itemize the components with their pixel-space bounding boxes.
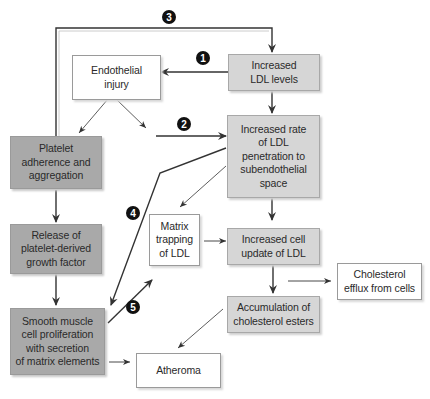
badge-4: 4 [126,206,140,220]
badge-1: 1 [196,51,210,65]
node-increased-cell-uptake: Increased cell update of LDL [227,228,320,265]
node-cholesterol-efflux: Cholesterol efflux from cells [337,263,422,300]
badge-2: 2 [177,117,191,131]
node-matrix-trapping: Matrix trapping of LDL [149,214,200,266]
node-smooth-muscle-proliferation: Smooth muscle cell proliferation with se… [10,308,105,375]
badge-3: 3 [162,10,176,24]
node-release-pdgf: Release of platelet-derived growth facto… [10,224,102,274]
node-platelet-adherence: Platelet adherence and aggregation [10,136,102,189]
node-accumulation-cholesterol-esters: Accumulation of cholesterol esters [227,296,320,333]
node-increased-ldl-levels: Increased LDL levels [228,54,320,91]
node-ldl-penetration: Increased rate of LDL penetration to sub… [227,115,320,198]
node-atheroma: Atheroma [136,353,221,388]
node-endothelial-injury: Endothelial injury [72,55,161,100]
edge-endothelial-to-platelet [79,99,108,133]
badge-5: 5 [126,300,140,314]
atherosclerosis-flow-diagram: Endothelial injury Increased LDL levels … [0,0,430,399]
